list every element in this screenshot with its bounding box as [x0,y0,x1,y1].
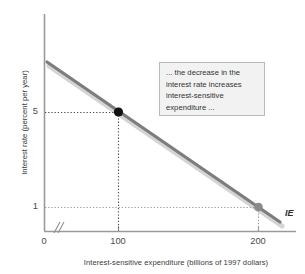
x-tick-label-0: 0 [29,236,59,246]
x-tick-label-200: 200 [243,236,273,246]
ie-curve-label: IE [285,208,294,218]
dropline-point-b [45,207,259,231]
annotation-callout: ... the decrease in the interest rate in… [159,62,265,116]
annotation-line-2: interest rate increases [166,79,259,91]
data-point-b[interactable] [254,203,263,212]
x-tick-label-100: 100 [103,236,133,246]
y-tick-label-1: 1 [22,201,38,211]
annotation-line-3: interest-sensitive [166,90,259,102]
x-axis-title: Interest-sensitive expenditure (billions… [52,258,300,267]
chart-figure: Interest rate (percent per year) Interes… [0,0,305,274]
dropline-point-a [45,112,119,231]
y-tick-label-5: 5 [22,106,38,116]
y-axis-title: Interest rate (percent per year) [20,43,29,203]
annotation-line-4: expenditure ... [166,102,259,114]
chart-plot-area [0,0,305,274]
annotation-line-1: ... the decrease in the [166,67,259,79]
data-point-a[interactable] [114,107,123,116]
x-axis-ticks [119,226,259,231]
